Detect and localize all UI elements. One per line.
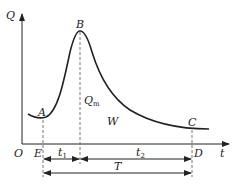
x-axis-label: t — [220, 147, 225, 160]
recession-time-label: t2 — [136, 146, 145, 160]
rise-time-label: t1 — [58, 146, 67, 160]
origin-label: O — [14, 147, 23, 160]
point-B-label: B — [75, 18, 84, 31]
point-E-label: E — [33, 147, 42, 160]
hydrograph-diagram: Q t O A B C D E Qm W t1 t2 T — [0, 0, 236, 191]
hydrograph-curve — [28, 31, 209, 129]
point-A-label: A — [37, 106, 46, 119]
point-C-label: C — [188, 116, 197, 129]
volume-label: W — [107, 115, 120, 128]
total-time-label: T — [114, 160, 123, 173]
peak-flow-label: Qm — [84, 94, 100, 108]
point-D-label: D — [193, 147, 203, 160]
y-axis-label: Q — [6, 9, 15, 22]
